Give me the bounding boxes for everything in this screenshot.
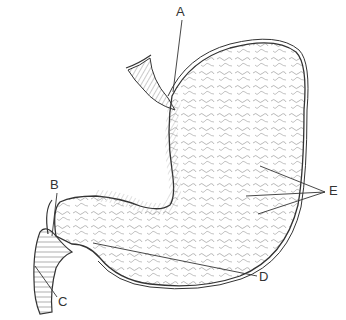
label-e: E [329,184,338,197]
esophagus [126,55,175,110]
stomach-body [55,39,308,289]
label-b: B [50,178,59,191]
stomach-diagram [0,0,346,320]
label-c: C [58,295,67,308]
label-d: D [259,270,268,283]
label-a: A [176,5,185,18]
